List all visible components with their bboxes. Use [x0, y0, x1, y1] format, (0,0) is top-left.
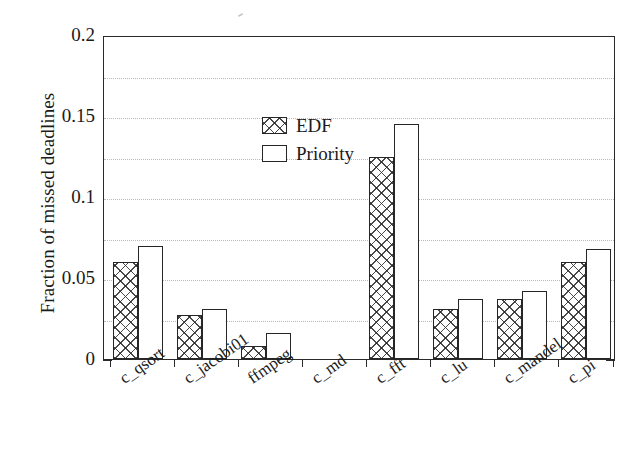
x-axis-tick	[494, 360, 495, 367]
y-axis-tick-label: 0	[11, 348, 95, 370]
x-axis-tick	[366, 360, 367, 367]
x-axis-tick	[558, 360, 559, 367]
gridline	[104, 280, 614, 281]
x-axis-tick	[302, 360, 303, 367]
plot-area: EDF Priority	[103, 36, 615, 360]
gridline	[104, 240, 614, 241]
legend-label-edf: EDF	[296, 116, 332, 135]
x-axis-tick	[110, 360, 111, 367]
bar	[458, 299, 483, 359]
y-axis-tick-label: 0.05	[11, 267, 95, 289]
bar	[177, 315, 202, 359]
legend-item-edf: EDF	[262, 113, 354, 137]
x-axis-tick	[238, 360, 239, 367]
legend-label-priority: Priority	[296, 144, 354, 163]
y-axis-tick-label: 0.1	[11, 186, 95, 208]
bar	[394, 124, 419, 359]
x-axis-tick-label: c_pi	[564, 355, 599, 388]
bar	[497, 299, 522, 359]
legend-item-priority: Priority	[262, 141, 354, 165]
x-axis-tick	[613, 360, 614, 367]
bar	[138, 246, 163, 359]
legend-swatch-edf-icon	[262, 117, 287, 134]
bar	[113, 262, 138, 359]
bar	[561, 262, 586, 359]
x-axis-tick-label: c_lu	[436, 355, 471, 388]
bar	[433, 309, 458, 359]
gridline	[104, 118, 614, 119]
legend-swatch-priority-icon	[262, 145, 287, 162]
y-axis-tick-label: 0.15	[11, 105, 95, 127]
legend: EDF Priority	[262, 113, 354, 165]
bar-chart-figure: Fraction of missed deadlines 00.050.10.1…	[0, 0, 644, 459]
gridline	[104, 78, 614, 79]
gridline	[104, 159, 614, 160]
bar	[369, 157, 394, 360]
x-axis-tick	[174, 360, 175, 367]
y-axis-tick-label: 0.2	[11, 24, 95, 46]
x-axis-tick	[430, 360, 431, 367]
scan-artifact-speck	[238, 13, 243, 17]
bar	[586, 249, 611, 359]
gridline	[104, 199, 614, 200]
